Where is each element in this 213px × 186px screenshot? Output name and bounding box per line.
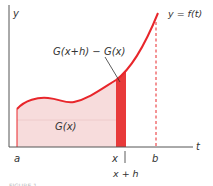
label-pointer-line <box>105 57 120 82</box>
curve-f <box>17 13 158 109</box>
tick-label-x: x <box>111 153 118 164</box>
strip-rectangle <box>116 71 126 147</box>
strip-label: G(x+h) − G(x) <box>53 46 125 57</box>
figure-caption: FIGURE 1 <box>9 182 37 186</box>
y-axis-label: y <box>12 8 20 19</box>
tick-label-b: b <box>152 153 158 164</box>
tick-label-a: a <box>14 153 20 164</box>
curve-label: y = f(t) <box>167 8 202 19</box>
t-axis-label: t <box>196 141 201 152</box>
area-label: G(x) <box>55 121 76 132</box>
area-function-diagram: y t y = f(t) G(x+h) − G(x) G(x) a x b x … <box>0 0 213 186</box>
tick-label-x-plus-h: x + h <box>112 168 139 179</box>
